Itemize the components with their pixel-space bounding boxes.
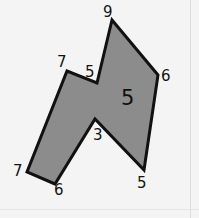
side-length-label-top-apex: 9 [103, 5, 113, 20]
side-length-label-bottom-right: 5 [137, 176, 147, 191]
geometry-figure-canvas: 9 7 5 6 3 7 6 5 5 [0, 0, 199, 218]
interior-area-label: 5 [121, 88, 134, 109]
side-length-label-bottom-center: 6 [54, 183, 64, 198]
polygon-svg [0, 0, 199, 218]
side-length-label-right: 6 [161, 69, 171, 84]
side-length-label-upper-left: 7 [57, 55, 67, 70]
side-length-label-bottom-left: 7 [13, 164, 23, 179]
side-length-label-top-notch: 5 [85, 65, 95, 80]
frame-right-divider [190, 0, 191, 218]
shape-polygon [27, 20, 158, 184]
side-length-label-bottom-notch: 3 [93, 128, 103, 143]
frame-bottom-divider [0, 209, 199, 210]
